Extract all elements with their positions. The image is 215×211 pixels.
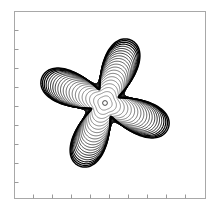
contour-level-1 — [98, 96, 112, 110]
axes-frame-group — [15, 12, 206, 199]
figure-canvas — [0, 0, 215, 211]
contour-level-21 — [41, 39, 169, 167]
contour-level-2 — [94, 92, 117, 115]
axes-frame — [15, 12, 206, 199]
contour-plot — [0, 0, 215, 211]
center-marker — [103, 101, 108, 106]
contour-lines — [41, 39, 169, 167]
contour-level-5 — [82, 80, 128, 126]
center-contour-circle — [103, 101, 108, 106]
contour-level-8 — [72, 70, 138, 136]
contour-level-4 — [86, 84, 125, 123]
